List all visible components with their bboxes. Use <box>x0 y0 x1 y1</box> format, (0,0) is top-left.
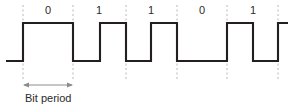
bit-period-caption: Bit period <box>25 92 71 105</box>
dimension-arrowhead-left <box>23 83 29 88</box>
bit-label-1: 1 <box>89 4 109 16</box>
bit-label-2: 1 <box>141 4 161 16</box>
waveform-trace <box>6 23 288 61</box>
bit-label-0: 0 <box>38 4 58 16</box>
bit-period-dimension-arrow <box>23 83 73 88</box>
dimension-arrowhead-right <box>67 83 73 88</box>
bit-label-3: 0 <box>192 4 212 16</box>
bit-label-4: 1 <box>243 4 263 16</box>
bit-period-figure: 0 1 1 0 1 Bit period <box>0 0 294 112</box>
